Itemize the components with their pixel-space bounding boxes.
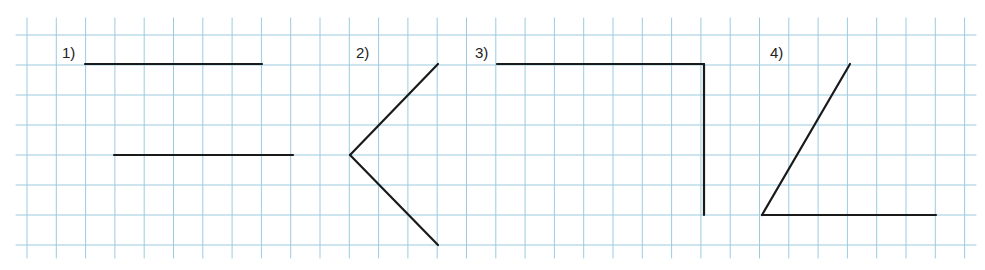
figure-4-label: 4) [770,44,783,61]
figure-2-segment [350,155,438,245]
figure-2-label: 2) [356,44,369,61]
figure-3-label: 3) [475,44,488,61]
figure-1-label: 1) [62,44,75,61]
grid-and-figures [0,0,985,270]
figure-4-segment [762,64,850,215]
figure-2-segment [350,64,438,155]
grid-paper-diagram: 1) 2) 3) 4) [0,0,985,270]
